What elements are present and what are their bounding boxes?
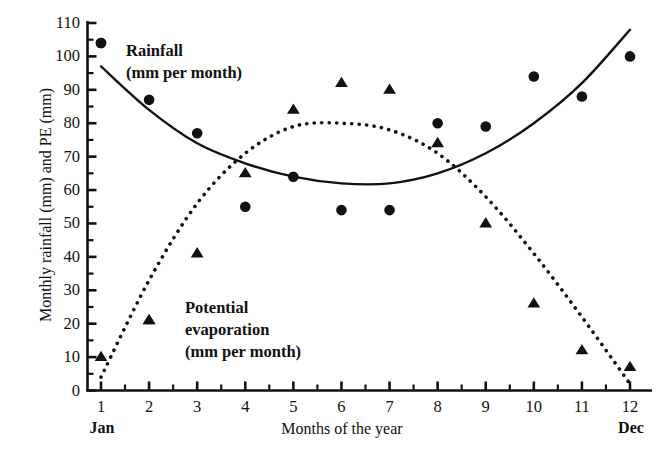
plot-area [0, 0, 663, 454]
data-point-rainfall [432, 118, 443, 129]
legend-marker-rainfall [96, 38, 107, 49]
x-axis-tick-label: 1 [86, 397, 116, 417]
y-axis-tick-label: 70 [40, 147, 80, 167]
x-axis-end-label: Dec [601, 419, 661, 437]
y-axis-tick-label: 110 [40, 13, 80, 33]
legend-label-rainfall: Rainfall (mm per month) [126, 40, 242, 84]
data-point-rainfall [577, 91, 588, 102]
x-axis-tick-label: 6 [326, 397, 356, 417]
x-axis-tick-label: 7 [375, 397, 405, 417]
y-axis-tick-label: 60 [40, 180, 80, 200]
data-point-rainfall [625, 51, 636, 62]
data-point-potential-evaporation [479, 217, 492, 227]
y-axis-tick-label: 10 [40, 347, 80, 367]
y-axis-tick-label: 80 [40, 113, 80, 133]
data-point-potential-evaporation [527, 297, 540, 307]
x-axis-tick-label: 12 [615, 397, 645, 417]
y-axis-tick-label: 50 [40, 213, 80, 233]
data-point-potential-evaporation [576, 344, 589, 354]
data-point-rainfall [240, 201, 251, 212]
x-axis-tick-label: 8 [423, 397, 453, 417]
x-axis-tick-label: 3 [182, 397, 212, 417]
x-axis-tick-label: 10 [519, 397, 549, 417]
x-axis-ticks [101, 382, 630, 391]
data-point-potential-evaporation [95, 351, 108, 361]
data-point-rainfall [192, 128, 203, 139]
x-axis-tick-label: 2 [134, 397, 164, 417]
data-point-rainfall [480, 121, 491, 132]
legend-marker-potential-evaporation [143, 314, 156, 324]
trend-curve-potential-evaporation [101, 123, 630, 384]
data-point-rainfall [288, 171, 299, 182]
legend-label-potential-evaporation: Potential evaporation (mm per month) [185, 297, 301, 362]
data-points [95, 38, 637, 371]
data-point-potential-evaporation [431, 137, 444, 147]
y-axis-tick-label: 0 [40, 381, 80, 401]
data-point-rainfall [529, 71, 540, 82]
x-axis-tick-label: 11 [567, 397, 597, 417]
y-axis-ticks [88, 23, 97, 391]
y-axis-tick-label: 20 [40, 314, 80, 334]
data-point-potential-evaporation [335, 77, 348, 87]
x-axis-tick-label: 5 [278, 397, 308, 417]
data-point-potential-evaporation [383, 83, 396, 93]
x-axis-title: Months of the year [232, 420, 452, 438]
data-point-rainfall [384, 205, 395, 216]
data-point-rainfall [144, 95, 155, 106]
x-axis-start-label: Jan [72, 419, 132, 437]
y-axis-tick-label: 30 [40, 280, 80, 300]
data-point-potential-evaporation [287, 103, 300, 113]
rainfall-pe-chart: Monthly rainfall (mm) and PE (mm) Months… [0, 0, 663, 454]
data-point-rainfall [336, 205, 347, 216]
y-axis-title: Monthly rainfall (mm) and PE (mm) [37, 55, 55, 355]
data-point-potential-evaporation [191, 247, 204, 257]
data-point-potential-evaporation [624, 361, 637, 371]
y-axis-tick-label: 40 [40, 247, 80, 267]
x-axis-tick-label: 9 [471, 397, 501, 417]
y-axis-tick-label: 90 [40, 80, 80, 100]
y-axis-tick-label: 100 [40, 46, 80, 66]
data-point-potential-evaporation [239, 167, 252, 177]
x-axis-tick-label: 4 [230, 397, 260, 417]
